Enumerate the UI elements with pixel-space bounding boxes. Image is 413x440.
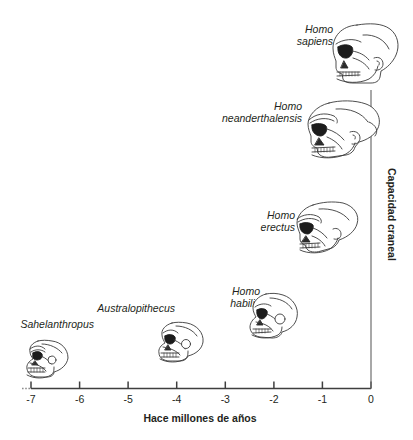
- species-sahelanthropus: Sahelanthropus: [0, 0, 413, 440]
- sahelanthropus-skull: [20, 333, 80, 383]
- species-label-line1: Sahelanthropus: [20, 318, 94, 330]
- species-label-sahelanthropus: Sahelanthropus: [8, 318, 94, 330]
- hominin-cranial-capacity-chart: -7 -6 -5 -4 -3 -2 -1 0 Hace millones de …: [0, 0, 413, 440]
